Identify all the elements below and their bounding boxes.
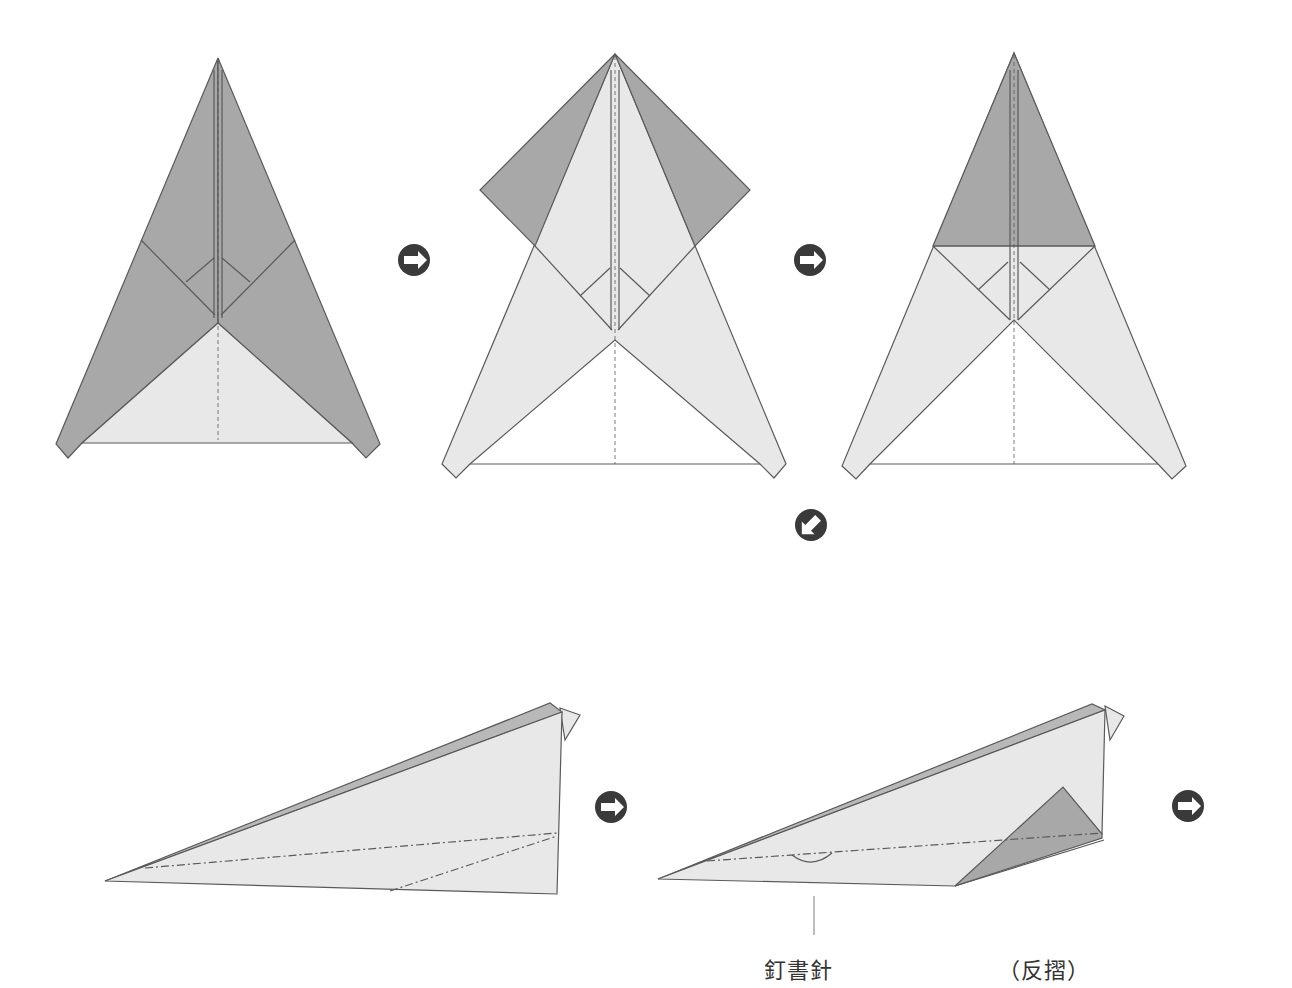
step-2-figure: [442, 54, 786, 478]
step-4-figure: [105, 703, 580, 894]
arrow-right-icon: [794, 244, 826, 276]
arrow-right-icon: [398, 244, 430, 276]
arrow-down-left-icon: [788, 502, 833, 547]
instruction-diagram: [0, 0, 1292, 988]
step-5-figure: [658, 704, 1124, 935]
reverse-fold-label: （反摺）: [998, 952, 1090, 984]
step-3-figure: [842, 53, 1186, 479]
arrow-right-icon: [595, 791, 627, 823]
step-1-figure: [56, 58, 380, 458]
arrow-right-icon: [1172, 790, 1204, 822]
staple-label: 釘書針: [764, 952, 833, 984]
